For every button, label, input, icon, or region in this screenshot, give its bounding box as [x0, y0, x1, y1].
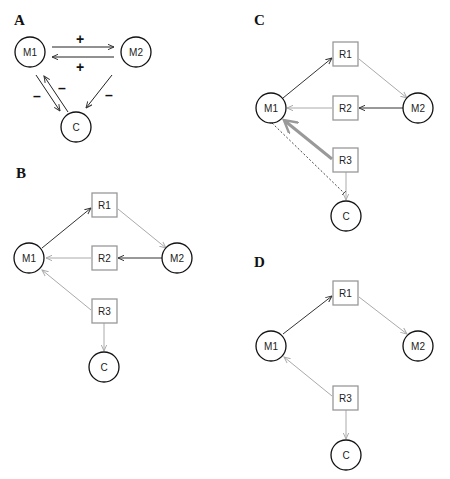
- node-c: C: [89, 352, 119, 382]
- panel-a: A + + – – – M1 M2 C: [14, 12, 151, 142]
- node-r3: R3: [333, 148, 358, 172]
- node-m2: M2: [403, 93, 433, 123]
- node-m2: M2: [121, 37, 151, 67]
- sign-m2-m1: +: [76, 59, 84, 75]
- node-r3: R3: [333, 386, 358, 410]
- svg-text:M2: M2: [170, 253, 184, 264]
- sign-c-m1: –: [58, 80, 66, 96]
- svg-text:C: C: [342, 211, 349, 222]
- edge-r1-m2: [359, 297, 407, 334]
- edge-m1-r1: [283, 58, 332, 98]
- sign-m2-c: –: [105, 87, 113, 103]
- node-r2: R2: [92, 246, 117, 270]
- svg-text:M2: M2: [411, 341, 425, 352]
- node-m1: M1: [14, 243, 44, 273]
- svg-text:M2: M2: [411, 103, 425, 114]
- svg-text:C: C: [72, 122, 79, 133]
- svg-text:C: C: [100, 362, 107, 373]
- node-r3: R3: [92, 299, 117, 323]
- node-r1: R1: [333, 42, 358, 66]
- node-m2: M2: [162, 243, 192, 273]
- svg-text:R3: R3: [98, 306, 111, 317]
- panel-a-label: A: [14, 12, 25, 28]
- svg-text:R1: R1: [339, 288, 352, 299]
- sign-m1-c: –: [33, 88, 41, 104]
- edge-m1-r1: [42, 208, 91, 248]
- node-r2: R2: [333, 96, 358, 120]
- node-c: C: [61, 112, 91, 142]
- svg-text:C: C: [342, 450, 349, 461]
- node-r1: R1: [333, 281, 358, 305]
- panel-c-label: C: [254, 12, 265, 28]
- panel-b: B R1 M1 R2 M2 R3 C: [14, 165, 192, 382]
- edge-r3-m1: [42, 270, 91, 310]
- panel-b-label: B: [16, 165, 26, 181]
- panel-d-label: D: [254, 254, 265, 270]
- diagram-canvas: A + + – – – M1 M2 C B: [0, 0, 450, 479]
- svg-text:R1: R1: [339, 49, 352, 60]
- node-m1: M1: [256, 93, 286, 123]
- panel-d: D R1 M1 M2 R3 C: [254, 254, 433, 470]
- svg-text:R3: R3: [339, 155, 352, 166]
- svg-text:R1: R1: [98, 200, 111, 211]
- sign-m1-m2: +: [76, 31, 84, 47]
- node-m1: M1: [256, 331, 286, 361]
- svg-text:M2: M2: [129, 47, 143, 58]
- svg-text:M1: M1: [264, 341, 278, 352]
- svg-text:R2: R2: [339, 103, 352, 114]
- svg-text:M1: M1: [23, 47, 37, 58]
- node-m2: M2: [403, 331, 433, 361]
- svg-text:M1: M1: [22, 253, 36, 264]
- node-m1: M1: [15, 37, 45, 67]
- edge-r3-m1: [284, 357, 332, 396]
- node-c: C: [331, 201, 361, 231]
- svg-text:M1: M1: [264, 103, 278, 114]
- panel-c: C R1 M1 R2 M2 R3 C: [254, 12, 433, 231]
- node-r1: R1: [92, 193, 117, 217]
- edge-r3-m1-thick: [285, 121, 332, 159]
- node-c: C: [331, 440, 361, 470]
- svg-text:R2: R2: [98, 253, 111, 264]
- edge-r1-m2: [118, 209, 166, 248]
- edge-r1-m2: [359, 59, 407, 98]
- svg-text:R3: R3: [339, 393, 352, 404]
- edge-m1-r1: [283, 296, 332, 334]
